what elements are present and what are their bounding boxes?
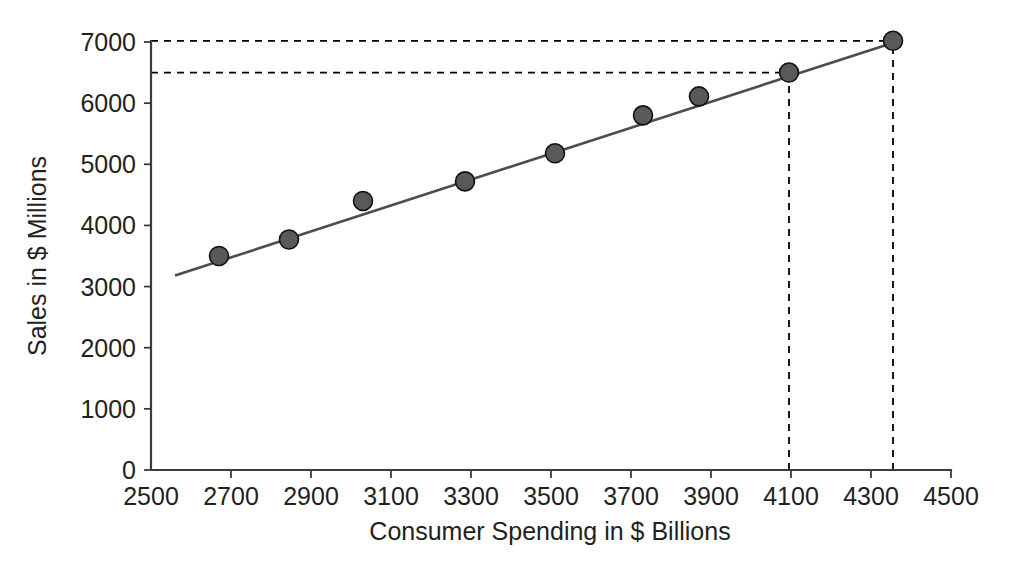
x-axis-tick-label: 4300 [843, 482, 899, 510]
y-axis-tick-label: 3000 [80, 273, 136, 301]
x-axis-tick-label: 3500 [523, 482, 579, 510]
chart-canvas: 0100020003000400050006000700025002700290… [0, 0, 1035, 574]
scatter-plot-figure: 0100020003000400050006000700025002700290… [0, 0, 1035, 574]
data-point-marker [280, 230, 299, 249]
x-axis-tick-label: 3900 [683, 482, 739, 510]
x-axis-tick-label: 2700 [203, 482, 259, 510]
x-axis-tick-label: 3700 [603, 482, 659, 510]
y-axis-tick-label: 7000 [80, 28, 136, 56]
axes-group [144, 41, 951, 478]
y-axis-tick-label: 5000 [80, 150, 136, 178]
data-point-marker [456, 172, 475, 191]
x-axis-tick-label: 4500 [923, 482, 979, 510]
data-point-marker [780, 63, 799, 82]
y-axis-tick-label: 1000 [80, 395, 136, 423]
data-point-marker [634, 106, 653, 125]
y-axis-tick-label: 6000 [80, 89, 136, 117]
x-axis-title: Consumer Spending in $ Billions [369, 517, 730, 545]
x-axis-tick-label: 3300 [443, 482, 499, 510]
y-axis-tick-label: 0 [122, 456, 136, 484]
x-axis-tick-label: 3100 [363, 482, 419, 510]
guide-lines-group [151, 41, 893, 470]
x-axis-tick-label: 2500 [123, 482, 179, 510]
data-point-marker [690, 87, 709, 106]
data-point-marker [210, 247, 229, 266]
data-point-marker [546, 144, 565, 163]
tick-labels-group: 0100020003000400050006000700025002700290… [80, 28, 978, 510]
data-point-marker [354, 191, 373, 210]
data-point-marker [884, 31, 903, 50]
y-axis-tick-label: 2000 [80, 334, 136, 362]
y-axis-tick-label: 4000 [80, 211, 136, 239]
x-axis-tick-label: 4100 [763, 482, 819, 510]
y-axis-title: Sales in $ Millions [23, 156, 51, 356]
x-axis-tick-label: 2900 [283, 482, 339, 510]
